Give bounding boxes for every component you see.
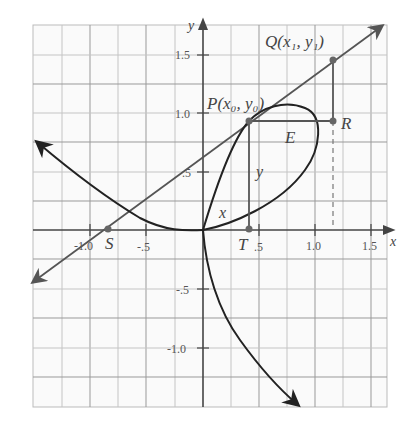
label-P: P(x₀, y₀) [206, 94, 264, 113]
label-x-segment: x [218, 204, 226, 221]
y-tick-label: -.5 [176, 283, 189, 297]
point-R [330, 118, 337, 125]
point-Q [330, 57, 337, 64]
x-tick-label: -.5 [137, 240, 150, 254]
x-tick-label: .5 [254, 240, 263, 254]
diagram-canvas: -1.0 -.5 .5 1.0 1.5 1.5 1.0 .5 -.5 -1.0 … [0, 0, 410, 429]
point-S [105, 226, 112, 233]
label-T: T [238, 235, 249, 254]
label-S: S [105, 234, 114, 253]
y-tick-label: 1.0 [175, 107, 190, 121]
point-T [246, 226, 253, 233]
label-y-segment: y [254, 163, 264, 181]
y-tick-label: -1.0 [167, 342, 186, 356]
label-E: E [284, 128, 296, 147]
point-P [246, 118, 253, 125]
folium-tangent-diagram: -1.0 -.5 .5 1.0 1.5 1.5 1.0 .5 -.5 -1.0 … [0, 0, 410, 429]
label-Q: Q(x₁, y₁) [265, 32, 324, 51]
y-axis-label: y [186, 18, 195, 33]
x-tick-label: 1.0 [306, 239, 321, 253]
x-axis-label: x [389, 234, 397, 249]
y-tick-label: 1.5 [175, 48, 190, 62]
label-R: R [340, 114, 352, 133]
x-tick-label: 1.5 [362, 239, 377, 253]
